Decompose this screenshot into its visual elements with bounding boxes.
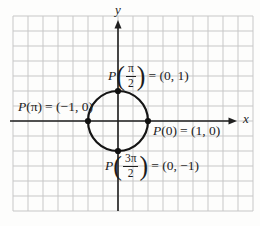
close-paren: ) (139, 152, 148, 180)
label-p-pi-over-2: P(π2)= (0, 1) (108, 61, 189, 91)
point-neg1-0-dot (85, 118, 91, 124)
fraction-numerator: 3π (123, 152, 139, 167)
close-paren: ) (137, 62, 146, 90)
label-p-0: P(0)= (1, 0) (153, 123, 220, 139)
p-symbol: P (153, 124, 161, 138)
fraction-pi-over-2: π2 (126, 62, 136, 91)
fraction-denominator: 2 (126, 167, 136, 181)
argument: 0 (166, 124, 173, 138)
fraction-numerator: π (126, 62, 136, 77)
label-p-pi: P(π)= (−1, 0) (18, 99, 93, 115)
equals-value: = (−1, 0) (45, 100, 93, 114)
equals-value: = (0, 1) (148, 69, 188, 83)
open-paren: ( (116, 62, 125, 90)
equals-value: = (1, 0) (180, 124, 220, 138)
equals-value: = (0, −1) (151, 159, 199, 173)
argument: π (31, 100, 38, 114)
unit-circle-figure: P(π2)= (0, 1) P(π)= (−1, 0) P(0)= (1, 0)… (0, 0, 260, 226)
close-paren: ) (38, 100, 43, 114)
y-axis-label: y (115, 3, 121, 16)
x-axis-label: x (243, 112, 249, 125)
y-axis-arrowhead (115, 20, 122, 29)
p-symbol: P (18, 100, 26, 114)
p-symbol: P (108, 69, 116, 83)
p-symbol: P (105, 159, 113, 173)
open-paren: ( (113, 152, 122, 180)
fraction-3pi-over-2: 3π2 (123, 152, 139, 181)
point-1-0-dot (145, 118, 151, 124)
fraction-denominator: 2 (126, 77, 136, 91)
close-paren: ) (173, 124, 178, 138)
label-p-3pi-over-2: P(3π2)= (0, −1) (105, 151, 199, 181)
x-axis-arrowhead (229, 118, 238, 125)
